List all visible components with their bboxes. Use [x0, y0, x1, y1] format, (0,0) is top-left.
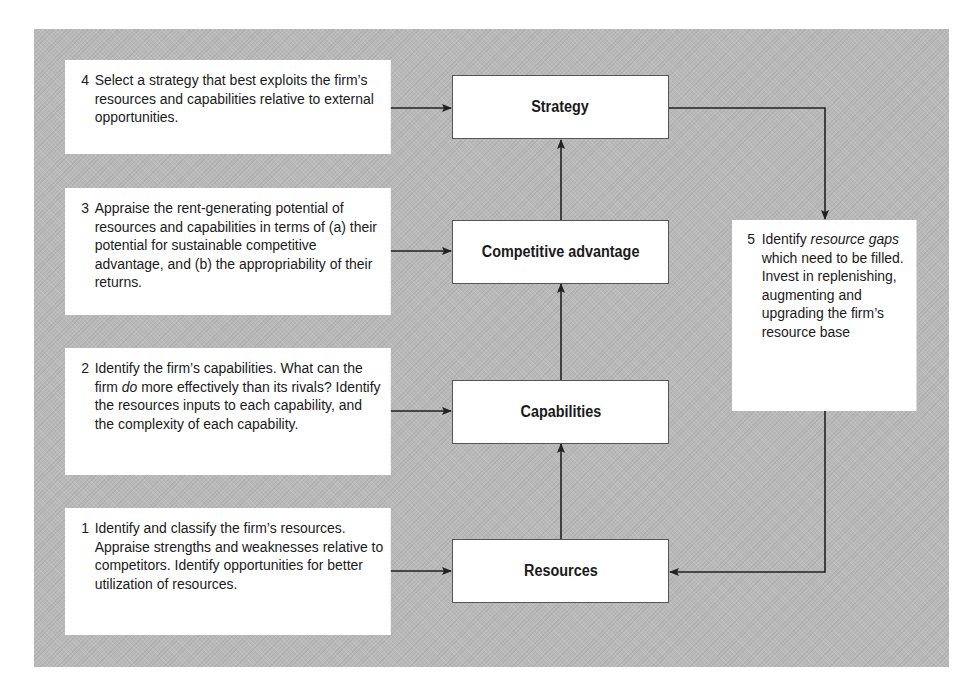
step-number: 2 — [81, 359, 89, 378]
step-text-emphasis: do — [122, 378, 138, 395]
node-label: Competitive advantage — [482, 243, 640, 261]
step-text-emphasis: resource gaps — [811, 230, 899, 247]
node-competitive-advantage: Competitive advantage — [452, 220, 669, 284]
step-number: 3 — [81, 199, 89, 218]
step-text: Appraise the rent-generating potential o… — [95, 199, 384, 292]
step-text-part: more effectively than its rivals? Identi… — [95, 378, 381, 432]
step-5-box: 5 Identify resource gaps which need to b… — [732, 220, 917, 411]
step-1-box: 1 Identify and classify the firm’s resou… — [65, 508, 391, 635]
step-text: Select a strategy that best exploits the… — [95, 71, 384, 127]
step-text: Identify the firm’s capabilities. What c… — [95, 359, 384, 433]
node-label: Resources — [524, 562, 598, 580]
step-2-box: 2 Identify the firm’s capabilities. What… — [65, 348, 391, 475]
step-text: Identify and classify the firm’s resourc… — [95, 519, 384, 593]
step-number: 5 — [747, 230, 755, 249]
step-number: 1 — [81, 519, 89, 538]
arrow-strategy-to-step5 — [669, 108, 825, 219]
arrow-step5-to-resources — [670, 411, 825, 572]
step-text: Identify resource gaps which need to be … — [762, 230, 910, 341]
node-strategy: Strategy — [452, 75, 669, 139]
step-text-part: Identify — [762, 230, 811, 247]
step-text-part: which need to be filled. Invest in reple… — [762, 249, 904, 340]
node-label: Strategy — [532, 98, 590, 116]
step-3-box: 3 Appraise the rent-generating potential… — [65, 188, 391, 315]
step-4-box: 4 Select a strategy that best exploits t… — [65, 60, 391, 154]
node-label: Capabilities — [520, 403, 601, 421]
node-capabilities: Capabilities — [452, 380, 669, 444]
node-resources: Resources — [452, 539, 669, 603]
step-number: 4 — [81, 71, 89, 90]
